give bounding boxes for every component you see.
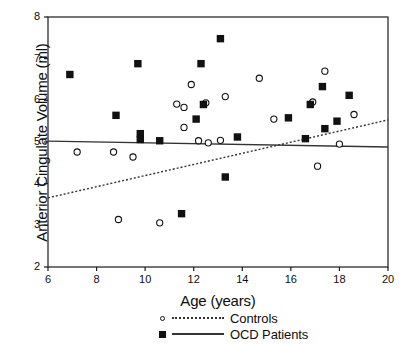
data-point-ocd bbox=[156, 137, 163, 144]
data-point-control bbox=[205, 140, 211, 146]
x-tick-label: 20 bbox=[376, 273, 400, 285]
data-point-control bbox=[314, 163, 320, 169]
x-tick-label: 12 bbox=[182, 273, 206, 285]
y-tick-label: 5 bbox=[18, 135, 40, 147]
data-point-control bbox=[271, 116, 277, 122]
legend: Controls OCD Patients bbox=[154, 310, 308, 342]
y-tick-label: 3 bbox=[18, 218, 40, 230]
x-tick-label: 8 bbox=[85, 273, 109, 285]
y-tick-label: 7 bbox=[18, 52, 40, 64]
data-point-ocd bbox=[321, 125, 328, 132]
data-point-control bbox=[74, 149, 80, 155]
data-point-control bbox=[222, 93, 228, 99]
x-tick-label: 10 bbox=[133, 273, 157, 285]
data-point-ocd bbox=[217, 35, 224, 42]
data-point-ocd bbox=[285, 114, 292, 121]
data-point-ocd bbox=[192, 115, 199, 122]
data-point-ocd bbox=[234, 133, 241, 140]
data-point-ocd bbox=[333, 117, 340, 124]
data-point-ocd bbox=[66, 71, 73, 78]
data-point-control bbox=[157, 220, 163, 226]
legend-label-ocd-patients: OCD Patients bbox=[230, 327, 308, 342]
data-point-control bbox=[217, 137, 223, 143]
legend-item-ocd-patients: OCD Patients bbox=[154, 326, 308, 342]
x-tick-label: 6 bbox=[36, 273, 60, 285]
x-tick-label: 14 bbox=[230, 273, 254, 285]
data-point-ocd bbox=[307, 101, 314, 108]
data-point-ocd bbox=[134, 60, 141, 67]
x-tick-label: 16 bbox=[279, 273, 303, 285]
data-point-ocd bbox=[302, 135, 309, 142]
y-tick-label: 2 bbox=[18, 260, 40, 272]
data-point-ocd bbox=[112, 112, 119, 119]
data-point-control bbox=[195, 138, 201, 144]
solid-line-icon bbox=[172, 331, 224, 337]
data-point-ocd bbox=[197, 60, 204, 67]
filled-square-icon bbox=[154, 331, 170, 338]
data-point-control bbox=[336, 141, 342, 147]
y-tick-label: 6 bbox=[18, 93, 40, 105]
x-tick-label: 18 bbox=[327, 273, 351, 285]
data-point-ocd bbox=[222, 173, 229, 180]
data-point-control bbox=[130, 154, 136, 160]
data-point-ocd bbox=[200, 101, 207, 108]
data-point-control bbox=[188, 81, 194, 87]
data-point-ocd bbox=[178, 210, 185, 217]
data-point-control bbox=[174, 101, 180, 107]
data-point-control bbox=[115, 216, 121, 222]
legend-label-controls: Controls bbox=[230, 311, 278, 326]
figure-container: Anterior Cingulate Volume (ml) Age (year… bbox=[0, 0, 401, 344]
data-point-control bbox=[322, 68, 328, 74]
data-point-ocd bbox=[319, 83, 326, 90]
data-point-control bbox=[110, 149, 116, 155]
y-tick-label: 4 bbox=[18, 177, 40, 189]
controls-fit-line bbox=[48, 120, 388, 198]
data-point-control bbox=[351, 111, 357, 117]
data-point-control bbox=[181, 124, 187, 130]
data-point-control bbox=[181, 104, 187, 110]
legend-item-controls: Controls bbox=[154, 310, 308, 326]
y-tick-label: 8 bbox=[18, 10, 40, 22]
data-point-control bbox=[256, 75, 262, 81]
dotted-line-icon bbox=[172, 315, 224, 321]
data-point-ocd bbox=[345, 92, 352, 99]
open-circle-icon bbox=[154, 316, 170, 321]
scatter-plot-canvas bbox=[0, 0, 401, 344]
data-point-ocd bbox=[137, 136, 144, 143]
